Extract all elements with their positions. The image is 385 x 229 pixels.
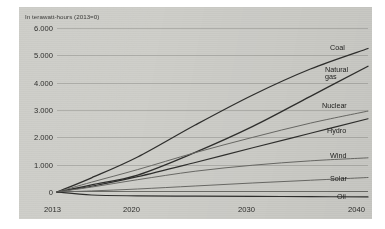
x-tick-label-2020: 2020	[123, 205, 140, 214]
series-line-wind	[57, 158, 368, 192]
series-label-solar: Solar	[330, 175, 347, 183]
y-tick-label: 3.000	[34, 106, 53, 115]
plot-area	[57, 28, 368, 192]
y-tick-label: 4.000	[34, 78, 53, 87]
series-label-oil: Oil	[337, 193, 346, 201]
x-tick-label-2013: 2013	[44, 205, 61, 214]
y-axis-tick-labels: 6.000 5.000 4.000 3.000 2.000 1.000 0	[20, 28, 53, 192]
y-tick-label: 5.000	[34, 51, 53, 60]
y-tick-label: 1.000	[34, 160, 53, 169]
series-line-hydro	[57, 119, 368, 192]
series-label-nuclear: Nuclear	[322, 102, 347, 110]
series-label-wind: Wind	[330, 152, 346, 160]
series-label-gas: gas	[325, 73, 337, 81]
x-tick-label-2030: 2030	[238, 205, 255, 214]
series-label-hydro: Hydro	[327, 127, 346, 135]
y-tick-label: 6.000	[34, 24, 53, 33]
y-tick-label: 0	[49, 188, 53, 197]
chart-subtitle: In terawatt-hours (2013=0)	[25, 13, 99, 20]
series-lines	[57, 28, 368, 192]
chart-figure: In terawatt-hours (2013=0) 6.000 5.000 4…	[0, 0, 385, 229]
y-tick-label: 2.000	[34, 133, 53, 142]
series-label-coal: Coal	[330, 44, 345, 52]
x-tick-label-2040: 2040	[348, 205, 365, 214]
